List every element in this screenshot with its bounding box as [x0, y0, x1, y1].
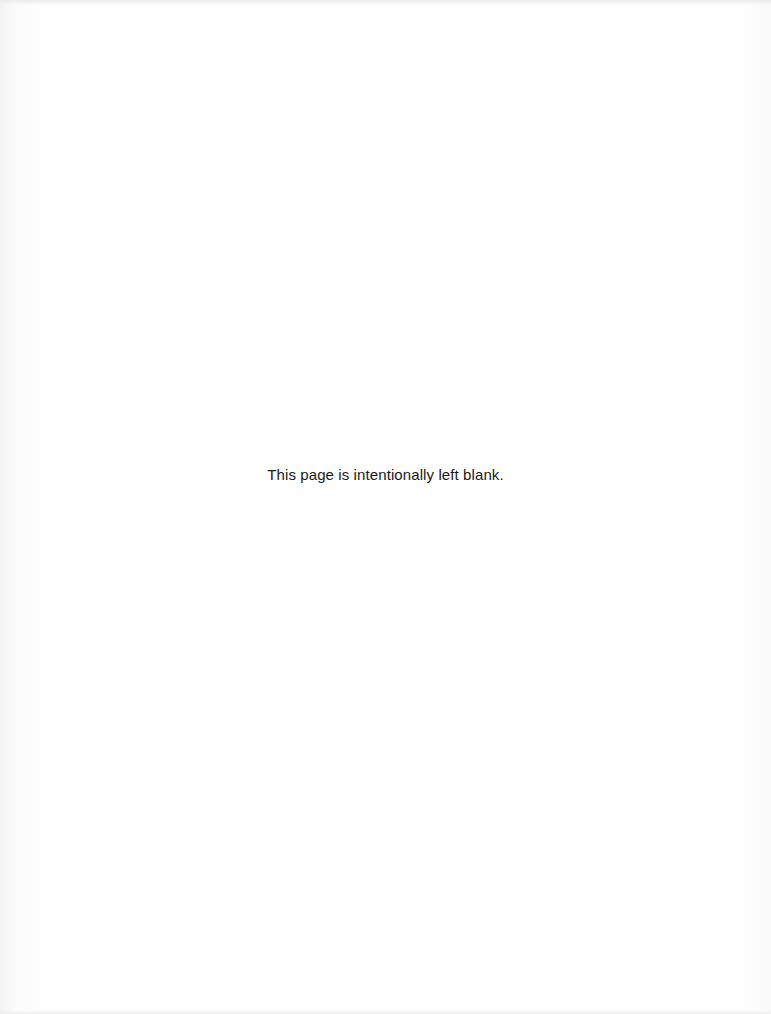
document-page: This page is intentionally left blank. — [0, 0, 771, 1014]
blank-page-notice: This page is intentionally left blank. — [0, 466, 771, 483]
